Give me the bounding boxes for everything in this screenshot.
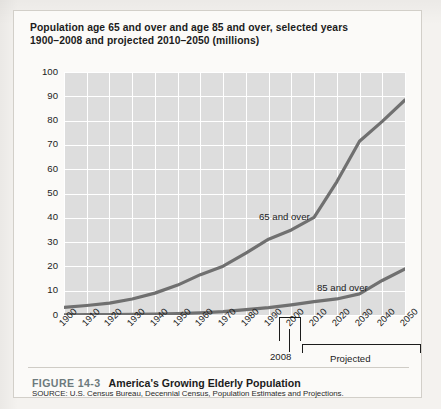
chart-title-line1: Population age 65 and over and age 85 an… bbox=[30, 21, 402, 34]
chart-title: Population age 65 and over and age 85 an… bbox=[30, 21, 402, 47]
year-2008-tick bbox=[289, 329, 290, 352]
y-axis-tick-label: 90 bbox=[28, 90, 58, 101]
plot-area bbox=[64, 72, 405, 315]
caption-divider bbox=[28, 367, 409, 368]
y-axis-tick-label: 70 bbox=[28, 138, 58, 149]
y-axis-tick-label: 10 bbox=[28, 284, 58, 295]
scanned-page: Population age 65 and over and age 85 an… bbox=[0, 0, 441, 409]
chart-title-line2: 1900–2008 and projected 2010–2050 (milli… bbox=[30, 34, 402, 47]
data-lines bbox=[64, 72, 405, 315]
projected-label: Projected bbox=[330, 353, 371, 364]
x-axis-tick-label: 1900 bbox=[57, 306, 79, 328]
series-label-65-and-over: 65 and over bbox=[259, 211, 310, 222]
y-axis-tick-label: 100 bbox=[28, 66, 58, 77]
y-axis-tick-label: 60 bbox=[28, 163, 58, 174]
y-axis-tick-label: 30 bbox=[28, 236, 58, 247]
y-axis-tick-label: 40 bbox=[28, 211, 58, 222]
figure-card: Population age 65 and over and age 85 an… bbox=[13, 10, 422, 398]
figure-number: FIGURE 14-3 bbox=[32, 377, 101, 389]
y-axis-tick-label: 0 bbox=[28, 309, 58, 320]
y-axis-tick-label: 50 bbox=[28, 187, 58, 198]
y-axis-tick-label: 20 bbox=[28, 260, 58, 271]
series-label-85-and-over: 85 and over bbox=[317, 282, 368, 293]
gridline-vertical bbox=[405, 72, 406, 315]
projected-bracket bbox=[302, 344, 421, 353]
year-2008-label: 2008 bbox=[270, 351, 291, 362]
y-axis-tick-label: 80 bbox=[28, 114, 58, 125]
line-65-and-over bbox=[64, 100, 405, 308]
figure-caption: America's Growing Elderly Population bbox=[109, 377, 301, 389]
source-note: SOURCE: U.S. Census Bureau, Decennial Ce… bbox=[32, 389, 412, 398]
